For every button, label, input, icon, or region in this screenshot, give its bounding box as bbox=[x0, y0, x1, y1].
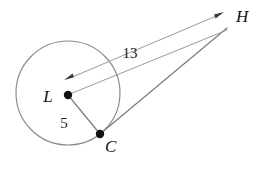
point-dot-C bbox=[96, 130, 104, 138]
ray-segment-HL bbox=[70, 30, 227, 94]
point-label-L: L bbox=[42, 87, 52, 106]
measure-label-hypotenuse: 13 bbox=[123, 45, 138, 61]
ray-extension-toward-H bbox=[70, 14, 221, 78]
point-dot-L bbox=[64, 91, 72, 99]
radius-segment-LC bbox=[68, 95, 100, 134]
geometry-figure-svg: L C H 5 13 bbox=[0, 0, 268, 172]
point-label-H: H bbox=[235, 7, 250, 26]
geometry-diagram: L C H 5 13 bbox=[0, 0, 268, 172]
arrow-head-toward-H bbox=[214, 12, 224, 18]
measure-label-radius: 5 bbox=[60, 115, 68, 131]
arrow-head-toward-L bbox=[64, 74, 74, 80]
point-label-C: C bbox=[105, 137, 117, 156]
